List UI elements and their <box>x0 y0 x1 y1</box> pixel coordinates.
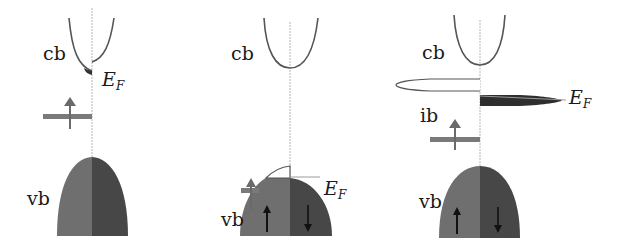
empty-band-top <box>266 166 290 178</box>
ib-label: ib <box>420 104 438 126</box>
vb-label: vb <box>418 190 442 212</box>
conduction-band <box>264 18 318 68</box>
band-diagram-figure: cb EF vb cb EF <box>0 0 641 249</box>
conduction-band-spin-up <box>69 18 92 71</box>
cb-label: cb <box>422 41 445 63</box>
spin-up-arrow-icon <box>449 119 461 150</box>
spin-up-arrow-icon <box>64 97 76 129</box>
panel-1: cb EF vb <box>26 8 128 236</box>
valence-band-spin-up <box>57 157 92 236</box>
fermi-level-label: EF <box>323 177 347 202</box>
valence-band-spin-up <box>439 166 480 238</box>
vb-label: vb <box>220 208 244 230</box>
panel-2: cb EF vb <box>220 18 347 236</box>
empty-impurity-band <box>396 79 480 91</box>
valence-band-spin-down <box>92 157 128 236</box>
conduction-band-spin-down <box>92 18 114 62</box>
impurity-level <box>43 114 92 119</box>
vb-label: vb <box>26 187 50 209</box>
fermi-level-label: EF <box>101 68 125 93</box>
panel-3: cb EF ib vb <box>396 15 592 238</box>
cb-label: cb <box>231 42 254 64</box>
cb-label: cb <box>43 42 66 64</box>
fermi-level-label: EF <box>568 86 592 111</box>
